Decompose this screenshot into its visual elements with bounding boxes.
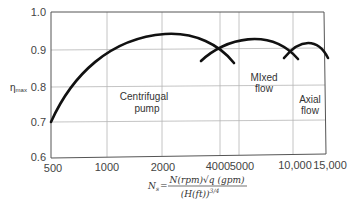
x-tick-1000: 1000 xyxy=(95,161,119,173)
axial-label-line2: flow xyxy=(301,105,320,116)
mixed-label-line1: MIxed xyxy=(250,72,277,83)
grid xyxy=(51,12,325,157)
efficiency-chart: 1.0 0.9 0.8 0.7 0.6 ηmax 500 1000 2000 4… xyxy=(0,0,350,208)
x-tick-15000: 15,000 xyxy=(313,159,347,171)
x-tick-500: 500 xyxy=(44,162,62,174)
axial-flow-curve xyxy=(284,43,328,58)
y-tick-0.7: 0.7 xyxy=(31,116,46,128)
y-tick-0.9: 0.9 xyxy=(31,44,46,56)
formula-numerator: N(rpm)√q (gpm) xyxy=(169,175,245,185)
centrifugal-label-line1: Centrifugal xyxy=(120,91,168,102)
x-axis-formula: Ns = N(rpm)√q (gpm) (H(ft))3/4 xyxy=(147,175,247,199)
y-tick-0.8: 0.8 xyxy=(31,81,46,93)
y-tick-1.0: 1.0 xyxy=(31,6,46,18)
centrifugal-label-line2: pump xyxy=(134,103,159,114)
x-tick-5000: 5000 xyxy=(230,160,254,172)
x-tick-2000: 2000 xyxy=(151,161,175,173)
svg-text:=: = xyxy=(160,181,168,191)
mixed-label-line2: flow xyxy=(255,83,274,94)
svg-text:Ns: Ns xyxy=(147,181,159,192)
x-tick-10000: 10,000 xyxy=(278,159,312,171)
formula-denominator: (H(ft))3/4 xyxy=(181,187,220,199)
x-tick-4000: 4000 xyxy=(206,160,230,172)
axial-label-line1: Axial xyxy=(299,94,321,105)
y-axis-label: ηmax xyxy=(10,82,27,93)
